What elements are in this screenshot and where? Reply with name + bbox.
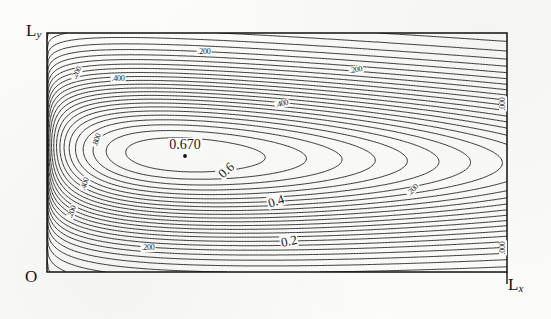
contour-line [495, 41, 507, 42]
contour-label: .200 [141, 244, 156, 252]
contour-figure: 0.6700.60.40.2.200.400.400.200.200.800.4… [0, 0, 551, 319]
contour-label: .000 [499, 241, 507, 256]
contour-line [207, 198, 508, 218]
peak-marker [183, 154, 187, 158]
contour-line [199, 253, 507, 260]
contour-line [202, 226, 507, 238]
contour-line [219, 33, 484, 49]
contour-line [231, 260, 507, 266]
contour-line [501, 51, 507, 52]
origin-label: O [25, 268, 37, 285]
contour-label: 0.2 [279, 233, 300, 250]
contour-plot-canvas [0, 0, 551, 319]
contour-line [92, 270, 98, 271]
contour-label: .200 [197, 48, 212, 56]
contour-line [320, 267, 507, 272]
contour-label: 0.670 [168, 138, 202, 152]
contour-line [83, 120, 375, 190]
x-axis-label: Lx [508, 276, 523, 294]
contour-line [191, 231, 507, 242]
contour-label: .400 [111, 75, 126, 83]
contour-lines [47, 33, 507, 272]
y-axis-label: Ly [26, 22, 41, 40]
contour-label: .000 [499, 97, 507, 112]
contour-line [378, 33, 494, 41]
contour-line [484, 49, 501, 50]
contour-line [211, 221, 507, 234]
